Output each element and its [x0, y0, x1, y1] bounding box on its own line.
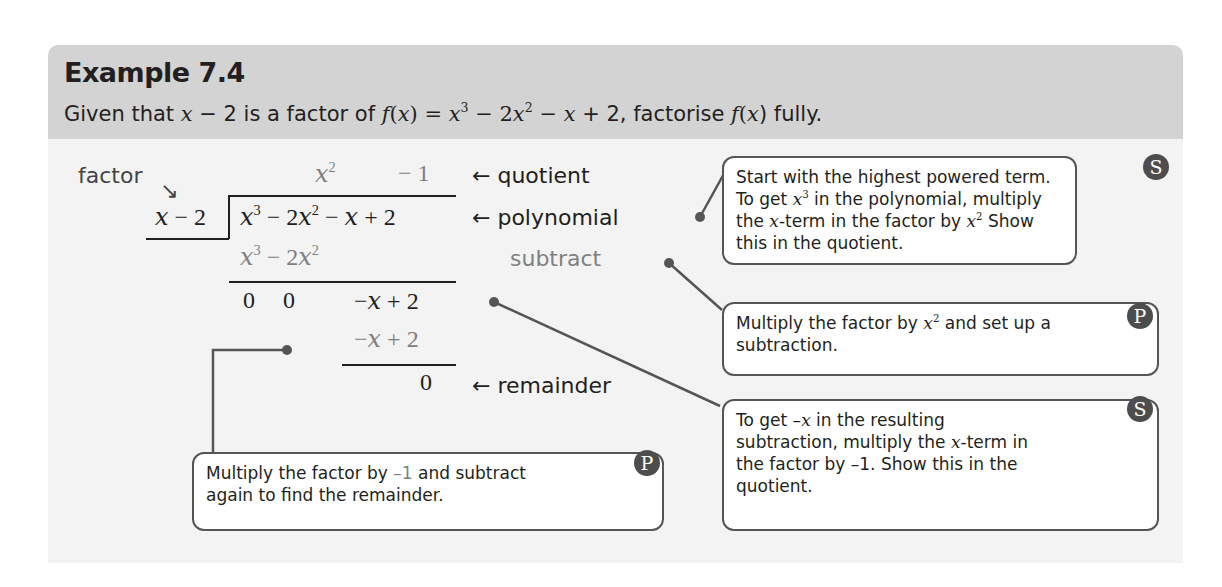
result-part: + 2: [381, 288, 419, 314]
question-math: x: [449, 102, 461, 126]
subtraction-1-line: [229, 281, 456, 283]
question-math: ) =: [410, 102, 449, 126]
example-title: Example 7.4: [64, 57, 245, 88]
callout-text: Multiply the factor by: [206, 463, 393, 483]
factor-label: factor: [78, 163, 142, 188]
dividend-part: x: [298, 203, 312, 231]
example-question: Given that x − 2 is a factor of f(x) = x…: [64, 102, 822, 126]
divisor-underline: [146, 238, 229, 240]
question-math: − 2: [469, 102, 513, 126]
divisor: x − 2: [155, 203, 206, 231]
sub-part: − 2: [261, 244, 299, 270]
sub-part: x: [298, 243, 312, 271]
factor-arrow-icon: ↘: [160, 178, 178, 203]
callout-text: Multiply the factor by: [736, 313, 923, 333]
dividend-part: − 2: [261, 204, 299, 230]
sub-exp: 3: [254, 242, 261, 258]
callout-body: To get –x in the resulting subtraction, …: [736, 409, 1036, 497]
question-exponent: 3: [461, 100, 469, 115]
quotient-term-1: x2: [315, 160, 336, 188]
badge-s-icon: S: [1127, 396, 1153, 422]
result-part: −: [354, 288, 368, 314]
divisor-rest: − 2: [169, 204, 207, 230]
question-math: x: [564, 102, 576, 126]
question-math: x: [747, 102, 759, 126]
callout-multiply-minus-one: Multiply the factor by –1 and subtract a…: [192, 452, 664, 531]
callout-start-highest-term: Start with the highest powered term. To …: [722, 156, 1077, 265]
quotient-label: ← quotient: [472, 163, 590, 188]
question-math: x: [181, 102, 193, 126]
badge-s-icon: S: [1143, 154, 1169, 180]
remainder-value: 0: [420, 369, 432, 396]
subtraction-1: x3 − 2x2: [240, 243, 319, 271]
dividend-exp: 2: [312, 202, 319, 218]
callout-math: –1: [393, 463, 412, 483]
polynomial-label: ← polynomial: [472, 205, 619, 230]
result-zero: 0: [283, 287, 295, 313]
dividend-part: x: [345, 203, 359, 231]
question-text: + 2, factorise: [576, 102, 732, 126]
question-math: f: [731, 102, 739, 126]
callout-math: x: [951, 432, 961, 452]
callout-math: x: [769, 211, 779, 231]
result-1-b: 0: [283, 287, 295, 314]
callout-math: x: [967, 211, 977, 231]
quotient-term-2: − 1: [398, 160, 430, 187]
callout-text: -term in the factor by: [779, 211, 967, 231]
quotient-var: x: [315, 160, 329, 188]
callout-multiply-x-squared: Multiply the factor by x2 and set up a s…: [722, 302, 1159, 376]
sub-part: + 2: [381, 326, 419, 352]
sub-exp: 2: [312, 242, 319, 258]
subtract-label: subtract: [510, 246, 601, 271]
remainder-label: ← remainder: [472, 373, 611, 398]
callout-text: To get –: [736, 410, 801, 430]
callout-math: x: [923, 313, 933, 333]
dividend-part: −: [319, 204, 345, 230]
dividend: x3 − 2x2 − x + 2: [240, 203, 396, 231]
result-1-c: −x + 2: [354, 287, 419, 315]
badge-p-icon: P: [1127, 303, 1153, 329]
question-math: (: [739, 102, 747, 126]
sub-part: x: [368, 325, 382, 353]
divisor-var: x: [155, 203, 169, 231]
example-header: Example 7.4 Given that x − 2 is a factor…: [48, 45, 1183, 139]
result-zero: 0: [243, 287, 255, 313]
division-bracket: [228, 195, 230, 239]
callout-math: x: [793, 189, 803, 209]
quotient-exp: 2: [329, 159, 336, 175]
dividend-part: + 2: [358, 204, 396, 230]
question-math: x: [398, 102, 410, 126]
dividend-part: x: [240, 203, 254, 231]
subtraction-2-line: [342, 364, 456, 366]
dividend-exp: 3: [254, 202, 261, 218]
result-part: x: [368, 287, 382, 315]
question-math: (: [389, 102, 397, 126]
callout-body: Multiply the factor by –1 and subtract a…: [206, 462, 526, 506]
question-math: x: [513, 102, 525, 126]
question-exponent: 2: [525, 100, 533, 115]
callout-math: x: [801, 410, 811, 430]
result-1: 0: [243, 287, 255, 314]
subtraction-2: −x + 2: [354, 325, 419, 353]
question-text: − 2 is a factor of: [193, 102, 382, 126]
question-text: Given that: [64, 102, 181, 126]
question-text: ) fully.: [759, 102, 822, 126]
badge-p-icon: P: [634, 450, 660, 476]
sub-part: x: [240, 243, 254, 271]
division-overline: [228, 195, 456, 197]
question-math: −: [533, 102, 564, 126]
sub-part: −: [354, 326, 368, 352]
callout-get-minus-x: To get –x in the resulting subtraction, …: [722, 399, 1159, 531]
